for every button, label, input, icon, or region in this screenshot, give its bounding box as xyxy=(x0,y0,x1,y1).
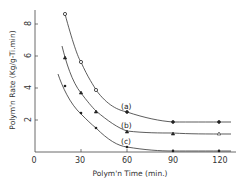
curve-label-a: (a) xyxy=(121,102,132,111)
y-tick-label: 8 xyxy=(24,21,33,26)
y-axis-title: Polym'n Rate (Kg/g-Ti.min) xyxy=(8,30,17,129)
y-tick-label: 2 xyxy=(24,117,33,122)
markers-b xyxy=(63,56,220,135)
x-tick-label: 120 xyxy=(212,156,227,165)
curve-a xyxy=(65,14,231,122)
curve-c xyxy=(58,74,231,151)
x-tick-label: 60 xyxy=(122,156,132,165)
polymerization-rate-chart: 2 4 6 8 0 30 60 90 120 Polym'n Time (min… xyxy=(0,0,250,188)
curve-b xyxy=(62,46,231,134)
x-tick-label: 30 xyxy=(75,156,85,165)
x-ticks xyxy=(81,149,219,152)
curve-label-c: (c) xyxy=(121,137,131,146)
x-axis-title: Polym'n Time (min.) xyxy=(93,169,168,178)
curve-label-b: (b) xyxy=(121,121,132,130)
y-ticks xyxy=(35,24,38,120)
y-tick-label: 4 xyxy=(24,85,33,90)
y-tick-label: 6 xyxy=(24,53,33,58)
x-tick-label: 90 xyxy=(168,156,178,165)
markers-a xyxy=(63,12,220,123)
markers-c xyxy=(64,85,221,153)
x-tick-label: 0 xyxy=(31,156,36,165)
